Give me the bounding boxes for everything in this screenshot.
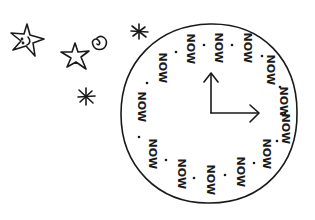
dot (146, 82, 149, 85)
now-word: NOW (136, 92, 147, 118)
minute-hand (211, 105, 259, 122)
dot (203, 44, 206, 47)
now-word: NOW (261, 139, 272, 165)
now-word: NOW (185, 34, 196, 60)
now-word: NOW (213, 33, 224, 59)
now-word: NOW (147, 139, 158, 165)
dot (193, 177, 196, 180)
asterisk-icon (78, 88, 95, 105)
dot (175, 51, 178, 54)
smiling-star-icon (11, 24, 44, 56)
now-word: NOW (280, 114, 291, 140)
star-icon (61, 43, 89, 69)
dot (231, 44, 234, 47)
now-word: NOW (265, 55, 276, 81)
dot (253, 162, 256, 165)
dot (224, 174, 227, 177)
now-word: NOW (278, 87, 289, 113)
now-word: NOW (205, 165, 216, 191)
now-word: NOW (242, 33, 253, 59)
dot (138, 136, 141, 139)
hour-hand (204, 73, 218, 113)
asterisk-icon (131, 24, 148, 39)
spiral-icon (93, 37, 107, 50)
now-word: NOW (176, 159, 187, 185)
dot (165, 159, 168, 162)
now-word: NOW (157, 53, 168, 79)
now-word: NOW (235, 157, 246, 183)
clock-illustration (0, 0, 315, 220)
